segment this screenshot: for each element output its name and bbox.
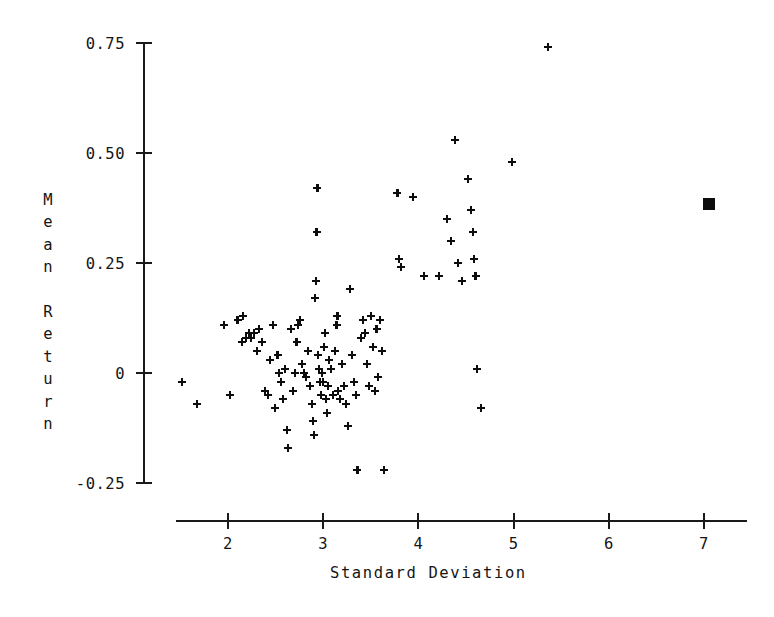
x-axis: 234567	[176, 513, 747, 553]
data-point	[344, 422, 352, 430]
data-point	[378, 347, 386, 355]
data-point	[544, 43, 552, 51]
y-axis-title-char: e	[43, 325, 52, 343]
data-point	[346, 285, 354, 293]
y-tick-label: 0.50	[86, 145, 125, 163]
y-axis-title-char: r	[43, 393, 52, 411]
data-point	[320, 343, 328, 351]
data-point	[365, 382, 373, 390]
data-point	[279, 395, 287, 403]
data-point	[258, 338, 266, 346]
data-point	[473, 365, 481, 373]
y-axis-title-char: u	[43, 370, 52, 388]
data-point	[324, 382, 332, 390]
data-point	[451, 136, 459, 144]
data-point	[321, 329, 329, 337]
data-point	[234, 316, 242, 324]
data-point	[333, 312, 341, 320]
data-point	[287, 325, 295, 333]
data-point	[274, 351, 282, 359]
data-point	[178, 378, 186, 386]
data-point	[334, 387, 342, 395]
data-point	[336, 395, 344, 403]
data-point	[508, 158, 516, 166]
data-point	[325, 356, 333, 364]
data-point	[329, 391, 337, 399]
data-point	[269, 321, 277, 329]
data-point	[327, 365, 335, 373]
data-point	[409, 193, 417, 201]
data-point	[331, 347, 339, 355]
data-point	[317, 391, 325, 399]
data-point	[472, 272, 480, 280]
data-point	[284, 444, 292, 452]
data-point	[458, 277, 466, 285]
data-point	[298, 360, 306, 368]
data-point	[369, 343, 377, 351]
x-axis-title: Standard Deviation	[330, 564, 527, 582]
data-point	[340, 382, 348, 390]
data-points	[178, 43, 714, 473]
data-point	[306, 382, 314, 390]
plot-canvas: 0.750.500.250-0.25 234567 Standard Devia…	[0, 0, 774, 617]
data-point	[293, 338, 301, 346]
data-point	[281, 365, 289, 373]
x-tick-label: 5	[509, 535, 519, 553]
data-point	[239, 312, 247, 320]
data-point	[477, 404, 485, 412]
y-tick-label: 0.75	[86, 35, 125, 53]
data-point	[309, 417, 317, 425]
y-axis-title-char: e	[43, 213, 52, 231]
data-point	[367, 312, 375, 320]
data-point	[333, 321, 341, 329]
y-tick-label: -0.25	[76, 475, 125, 493]
data-point	[359, 316, 367, 324]
data-point	[348, 351, 356, 359]
data-point	[220, 321, 228, 329]
data-point	[376, 316, 384, 324]
data-point	[420, 272, 428, 280]
data-point	[350, 378, 358, 386]
data-point	[352, 391, 360, 399]
y-tick-label: 0.25	[86, 255, 125, 273]
x-tick-label: 2	[223, 535, 233, 553]
x-tick-label: 7	[699, 535, 709, 553]
data-point	[314, 351, 322, 359]
data-point	[310, 431, 318, 439]
data-point	[338, 360, 346, 368]
data-point	[363, 360, 371, 368]
x-tick-label: 3	[318, 535, 328, 553]
x-tick-label: 6	[604, 535, 614, 553]
data-point	[275, 369, 283, 377]
y-axis-title-char: n	[43, 258, 52, 276]
y-axis-title-char: M	[43, 191, 52, 209]
data-point	[322, 395, 330, 403]
y-axis-title-char: a	[43, 236, 52, 254]
data-point	[311, 294, 319, 302]
data-point	[464, 175, 472, 183]
y-tick-label: 0	[115, 365, 125, 383]
data-point	[312, 277, 320, 285]
data-point	[253, 347, 261, 355]
data-point	[313, 228, 321, 236]
y-axis-title-char: R	[43, 303, 53, 321]
data-point	[470, 255, 478, 263]
data-point	[277, 378, 285, 386]
data-point	[469, 228, 477, 236]
axis-labels: Standard DeviationMeanReturn	[43, 191, 526, 582]
data-point	[380, 466, 388, 474]
data-point	[255, 325, 263, 333]
data-point	[397, 263, 405, 271]
y-axis: 0.750.500.250-0.25	[76, 35, 152, 493]
data-point	[353, 466, 361, 474]
data-point	[193, 400, 201, 408]
data-point	[226, 391, 234, 399]
data-point	[395, 255, 403, 263]
data-point	[304, 347, 312, 355]
data-point	[308, 400, 316, 408]
data-point	[289, 387, 297, 395]
data-point	[271, 404, 279, 412]
data-point	[283, 426, 291, 434]
data-point	[443, 215, 451, 223]
data-point	[342, 400, 350, 408]
